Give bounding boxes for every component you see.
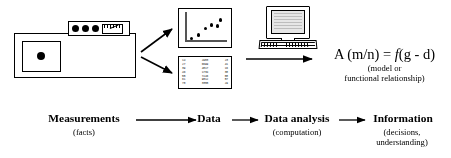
data-table-cell: 55 [182, 75, 195, 78]
keyboard-keys [261, 42, 315, 47]
arrow-instrument-to-table [141, 57, 172, 73]
instrument-sample-dot [37, 52, 45, 60]
data-table-cell: 41 [215, 63, 228, 66]
data-table-cell: 7246 [197, 75, 214, 78]
data-table-cell: 08 [215, 75, 228, 78]
data-table-cell: 38 [215, 71, 228, 74]
data-table-cell: 23 [215, 59, 228, 62]
data-table-cell: 78 [182, 82, 195, 85]
data-table-cell: 39 [182, 67, 195, 70]
flow-sub-measurements: (facts) [32, 128, 136, 138]
instrument-indicator-lights [72, 25, 99, 32]
keyboard-icon [259, 40, 318, 49]
data-table-cell: 29 [215, 82, 228, 85]
data-table-cell: 57 [215, 78, 228, 81]
equation-tail: (g - d) [399, 46, 435, 62]
flow-sub-information-line-2: understanding) [353, 138, 451, 148]
data-table-cell: 6699 [197, 63, 214, 66]
flow-label-data-analysis: Data analysis [253, 112, 341, 125]
flow-label-information: Information [357, 112, 449, 125]
data-table-cell: 3355 [197, 82, 214, 85]
data-table-cell: 2983 [197, 59, 214, 62]
data-table-cell: 14 [182, 59, 195, 62]
instrument-gauge-icon [102, 24, 123, 34]
arrow-instrument-to-plot [141, 29, 172, 52]
equation-lead: A (m/n) = [334, 46, 395, 62]
data-table-cell: 1734 [197, 71, 214, 74]
indicator-light-3 [92, 25, 99, 32]
data-table-cell: 4817 [197, 67, 214, 70]
flow-sub-information: (decisions, understanding) [353, 128, 451, 147]
data-table-cell: 9012 [197, 78, 214, 81]
monitor-screen [271, 10, 305, 34]
scatter-point [216, 24, 219, 27]
data-table-cell: 61 [182, 78, 195, 81]
flow-label-measurements: Measurements [32, 112, 136, 125]
indicator-light-2 [82, 25, 89, 32]
data-table: 1429832327669941394817164617343855724608… [182, 59, 228, 86]
data-table-card: 1429832327669941394817164617343855724608… [178, 56, 232, 89]
flow-label-data: Data [186, 112, 232, 125]
scatter-y-axis [185, 12, 187, 42]
scatter-point [219, 18, 222, 21]
flow-sub-data-analysis: (computation) [253, 128, 341, 138]
scatter-point [210, 23, 213, 26]
model-equation: A (m/n) = f(g - d) [318, 46, 451, 62]
equation-caption-line-2: functional relationship) [318, 74, 451, 84]
scatter-point [197, 33, 200, 36]
data-table-cell: 46 [182, 71, 195, 74]
equation-caption: (model or functional relationship) [318, 64, 451, 83]
indicator-light-1 [72, 25, 79, 32]
diagram-canvas: 1429832327669941394817164617343855724608… [0, 0, 451, 158]
data-table-cell: 27 [182, 63, 195, 66]
scatter-x-axis [185, 40, 227, 42]
screen-text-lines [274, 13, 302, 31]
data-table-cell: 16 [215, 67, 228, 70]
